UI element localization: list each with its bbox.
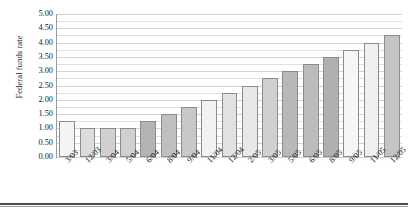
y-tick-label: 5.00 [22,10,53,18]
y-tick-label: 0.00 [22,153,53,161]
bar [364,43,380,157]
footer-divider-secondary [0,206,408,207]
x-axis-tick-labels: 3/0312/033/045/046/048/049/0411/0412/042… [57,159,402,199]
y-tick-label: 3.50 [22,53,53,61]
footer-divider [0,203,408,205]
bar [262,78,278,157]
bar [303,64,319,157]
bar [343,50,359,157]
y-tick-label: 4.50 [22,24,53,32]
bar [384,35,400,157]
plot-area [57,14,402,157]
y-tick-label: 1.50 [22,110,53,118]
bar [222,93,238,157]
bar [282,71,298,157]
y-tick-label: 2.00 [22,96,53,104]
y-tick-label: 1.00 [22,124,53,132]
bar [323,57,339,157]
y-tick-label: 2.50 [22,81,53,89]
y-axis-tick-labels: 0.000.501.001.502.002.503.003.504.004.50… [22,14,53,157]
y-tick-label: 0.50 [22,139,53,147]
chart-figure: Federal funds rate 0.000.501.001.502.002… [0,0,408,212]
y-tick-label: 3.00 [22,67,53,75]
y-tick-label: 4.00 [22,38,53,46]
bar-series [57,14,402,157]
bar [242,86,258,158]
